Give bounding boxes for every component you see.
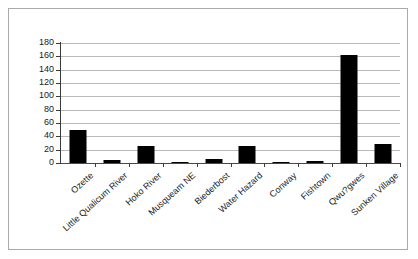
chart-frame: 020406080100120140160180 OzetteLittle Qu… <box>8 8 408 250</box>
bar-slot <box>197 43 231 163</box>
bar[interactable] <box>69 130 86 163</box>
y-tick-label: 80 <box>19 105 54 114</box>
bar[interactable] <box>341 55 358 163</box>
y-tick-label: 60 <box>19 118 54 127</box>
bar-slot <box>332 43 366 163</box>
x-tick-mark <box>129 163 130 167</box>
y-tick-mark <box>56 163 61 164</box>
x-category-label: Biederbost <box>76 170 231 259</box>
bar-slot <box>264 43 298 163</box>
x-tick-mark <box>298 163 299 167</box>
y-tick-mark <box>56 83 61 84</box>
x-tick-mark <box>95 163 96 167</box>
bar-slot <box>298 43 332 163</box>
x-tick-mark <box>264 163 265 167</box>
y-tick-mark <box>56 43 61 44</box>
bar[interactable] <box>375 144 392 163</box>
x-category-label: Qwu?gwes <box>211 170 366 259</box>
x-tick-mark <box>231 163 232 167</box>
y-tick-mark <box>56 110 61 111</box>
y-tick-label: 0 <box>19 158 54 167</box>
y-tick-label: 120 <box>19 78 54 87</box>
x-tick-mark <box>163 163 164 167</box>
x-tick-mark <box>197 163 198 167</box>
bar-slot <box>163 43 197 163</box>
y-tick-mark <box>56 123 61 124</box>
x-category-label: Water Hazard <box>109 170 264 259</box>
x-tick-mark <box>366 163 367 167</box>
y-tick-mark <box>56 136 61 137</box>
y-tick-label: 180 <box>19 38 54 47</box>
bar[interactable] <box>103 160 120 163</box>
y-tick-label: 40 <box>19 131 54 140</box>
x-tick-mark <box>400 163 401 167</box>
bar-slot <box>61 43 95 163</box>
y-tick-label: 140 <box>19 65 54 74</box>
x-category-label: Sunken Village <box>245 170 400 259</box>
y-tick-mark <box>56 70 61 71</box>
bar-slot <box>95 43 129 163</box>
bar[interactable] <box>137 146 154 163</box>
x-category-label: Musqueam NE <box>42 170 197 259</box>
x-category-label: Fishtown <box>177 170 332 259</box>
y-tick-label: 20 <box>19 145 54 154</box>
bar[interactable] <box>307 161 324 163</box>
bar[interactable] <box>171 162 188 163</box>
x-category-label: Conway <box>143 170 298 259</box>
bar[interactable] <box>205 159 222 163</box>
y-axis-tick-labels: 020406080100120140160180 <box>19 9 54 259</box>
y-tick-mark <box>56 96 61 97</box>
bar-slot <box>366 43 400 163</box>
bar-slot <box>231 43 265 163</box>
bar-slot <box>129 43 163 163</box>
y-tick-label: 160 <box>19 51 54 60</box>
x-tick-mark <box>332 163 333 167</box>
y-tick-mark <box>56 56 61 57</box>
y-tick-label: 100 <box>19 91 54 100</box>
plot-area <box>61 43 400 163</box>
bar[interactable] <box>273 162 290 163</box>
y-tick-mark <box>56 150 61 151</box>
bar[interactable] <box>239 146 256 163</box>
